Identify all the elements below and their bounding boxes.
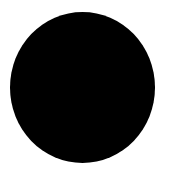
canvas xyxy=(0,0,172,184)
black-circle xyxy=(10,12,155,163)
